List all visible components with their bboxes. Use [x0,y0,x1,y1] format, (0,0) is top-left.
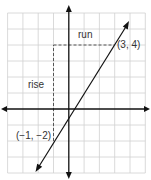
x-axis-left-arrow-icon [1,106,7,112]
y-axis-down-arrow-icon [66,172,72,179]
grid [8,13,146,173]
x-axis-right-arrow-icon [144,106,150,112]
line-arrow-up-icon [123,21,129,29]
rise-label: rise [28,79,45,90]
point-b-label: (−1, −2) [16,130,51,141]
line-arrow-down-icon [36,164,43,172]
axes [1,5,150,179]
point-a-label: (3, 4) [117,39,140,50]
coordinate-plane: run rise (3, 4) (−1, −2) [0,0,151,180]
y-axis-up-arrow-icon [66,5,72,12]
run-label: run [78,29,92,40]
